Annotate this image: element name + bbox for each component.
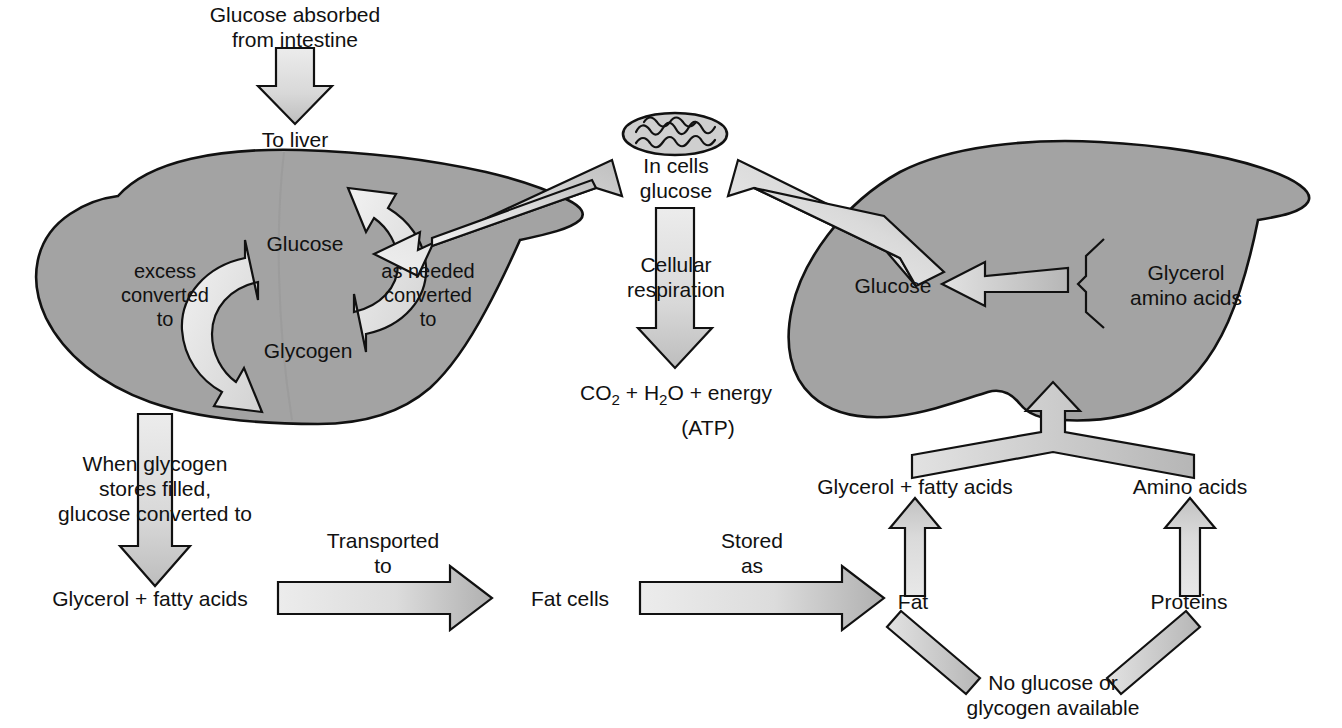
label-glucose-absorbed: Glucose absorbed from intestine bbox=[210, 2, 380, 52]
label-no-glucose-available: No glucose or glycogen available bbox=[967, 670, 1140, 720]
label-cellular-respiration: Cellular respiration bbox=[627, 252, 725, 302]
arrow-glucose-absorbed-to-liver bbox=[258, 48, 332, 124]
label-respiration-products: CO2 + H2O + energy bbox=[580, 380, 772, 411]
metabolism-diagram: Glucose absorbed from intestine To liver… bbox=[0, 0, 1342, 728]
label-amino-acids: Amino acids bbox=[1133, 474, 1247, 499]
label-as-needed-converted-to: as needed converted to bbox=[381, 259, 474, 331]
arrow-proteins-to-amino-acids bbox=[1165, 498, 1215, 596]
label-liver-glycogen: Glycogen bbox=[264, 338, 353, 363]
label-to-liver: To liver bbox=[262, 127, 329, 152]
liver-left bbox=[36, 150, 583, 424]
label-atp: (ATP) bbox=[681, 415, 734, 440]
label-glycerol-amino-acids: Glycerol amino acids bbox=[1130, 260, 1242, 310]
label-fat-cells: Fat cells bbox=[531, 586, 609, 611]
label-when-glycogen-stores: When glycogen stores filled, glucose con… bbox=[58, 451, 252, 526]
label-glycerol-fatty-acids-left: Glycerol + fatty acids bbox=[52, 586, 248, 611]
label-liver-glucose: Glucose bbox=[266, 231, 343, 256]
respiration-equation: CO2 + H2O + energy bbox=[580, 381, 772, 404]
label-right-glucose: Glucose bbox=[854, 273, 931, 298]
label-transported-to: Transported to bbox=[327, 528, 439, 578]
label-excess-converted-to: excess converted to bbox=[121, 259, 209, 331]
diagram-canvas bbox=[0, 0, 1342, 728]
label-in-cells-glucose: In cells glucose bbox=[640, 153, 712, 203]
label-proteins: Proteins bbox=[1150, 589, 1227, 614]
arrow-fat-to-glycerol bbox=[890, 498, 940, 596]
label-glycerol-fatty-acids-right: Glycerol + fatty acids bbox=[817, 474, 1013, 499]
label-fat: Fat bbox=[898, 589, 928, 614]
label-stored-as: Stored as bbox=[721, 528, 783, 578]
mitochondrion-icon bbox=[623, 113, 727, 155]
